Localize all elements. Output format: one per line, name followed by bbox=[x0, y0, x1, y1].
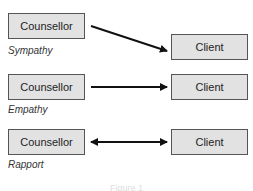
client-box-rapport: Client bbox=[171, 129, 248, 155]
counsellor-box-empathy: Counsellor bbox=[8, 74, 85, 100]
empathy-label: Empathy bbox=[8, 104, 47, 115]
counsellor-box-rapport: Counsellor bbox=[8, 129, 85, 155]
client-box-sympathy: Client bbox=[171, 34, 248, 60]
figure-caption: Figure 1 bbox=[0, 183, 253, 191]
sympathy-arrow bbox=[91, 26, 167, 51]
sympathy-label: Sympathy bbox=[8, 45, 52, 56]
rapport-label: Rapport bbox=[8, 159, 44, 170]
client-box-empathy: Client bbox=[171, 74, 248, 100]
counsellor-box-sympathy: Counsellor bbox=[8, 13, 85, 39]
